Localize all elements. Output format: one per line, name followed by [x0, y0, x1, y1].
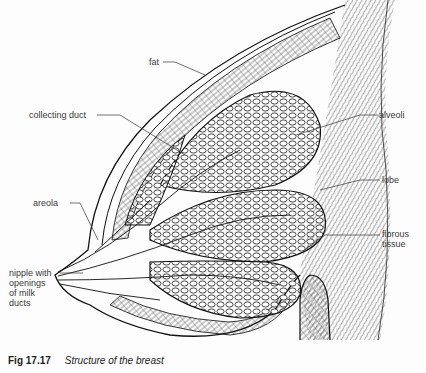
lobe-upper — [160, 91, 320, 192]
label-alveoli: alveoli — [379, 110, 405, 120]
lobe-lower — [150, 261, 301, 318]
figure-caption: Fig 17.17Structure of the breast — [8, 355, 164, 366]
figure-number: Fig 17.17 — [8, 355, 51, 366]
label-fibrous-tissue: fibrous tissue — [382, 229, 409, 249]
breast-structure-diagram: fat collecting duct alveoli lobe areola … — [0, 0, 426, 373]
lobe-middle — [150, 190, 325, 262]
label-areola: areola — [33, 198, 58, 208]
label-fat: fat — [149, 57, 159, 67]
label-collecting-duct: collecting duct — [29, 110, 86, 120]
label-lobe: lobe — [382, 175, 399, 185]
figure-title: Structure of the breast — [65, 355, 164, 366]
anatomy-illustration — [0, 0, 426, 373]
label-nipple: nipple with openings of milk ducts — [9, 268, 52, 308]
